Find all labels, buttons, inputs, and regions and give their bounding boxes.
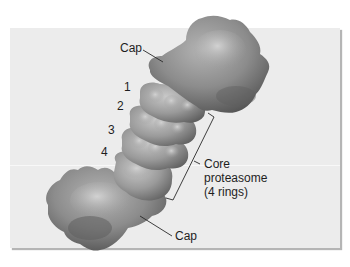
label-ring-2: 2 bbox=[117, 100, 124, 113]
label-core-line3: (4 rings) bbox=[204, 186, 248, 199]
core-bracket-tick bbox=[194, 161, 200, 164]
label-cap-top: Cap bbox=[120, 42, 142, 55]
label-ring-1: 1 bbox=[124, 81, 131, 94]
proteasome-illustration bbox=[0, 0, 350, 267]
label-cap-bottom: Cap bbox=[175, 230, 197, 243]
label-ring-3: 3 bbox=[108, 124, 115, 137]
label-core-line1: Core bbox=[204, 158, 230, 171]
label-ring-4: 4 bbox=[101, 146, 108, 159]
label-core-line2: proteasome bbox=[204, 172, 267, 185]
cap-bottom-leader-line bbox=[140, 216, 172, 236]
